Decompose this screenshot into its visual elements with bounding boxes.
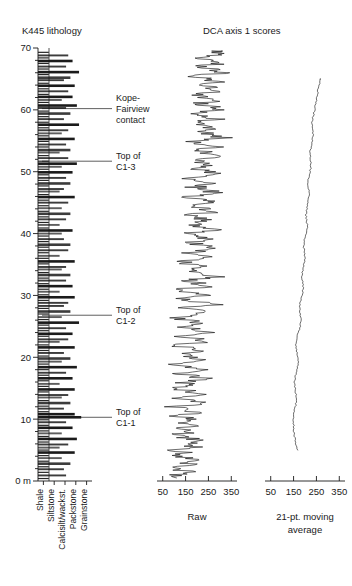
- lithology-y-tick-label: 50: [20, 166, 31, 177]
- lithology-y-tick-label: 20: [20, 352, 31, 363]
- lithology-bar: [38, 116, 49, 117]
- lithology-bar: [38, 432, 62, 434]
- lithology-y-tick-label: 30: [20, 290, 31, 301]
- lithology-bar: [38, 357, 70, 360]
- lithology-bar: [38, 171, 73, 174]
- lithology-bar: [38, 375, 49, 376]
- annotation-label: Kope-: [116, 93, 140, 103]
- lithology-bar: [38, 207, 62, 209]
- lithology-bar: [38, 285, 73, 288]
- lithology-bar: [38, 54, 68, 56]
- lithology-bar: [38, 436, 49, 437]
- lithology-bar: [38, 472, 49, 473]
- lithology-x-axis: [38, 481, 92, 485]
- dca-raw-curve: [164, 51, 232, 478]
- lithology-bar: [38, 294, 49, 295]
- annotation-label: Fairview: [116, 104, 150, 114]
- lithology-bar: [38, 241, 49, 242]
- annotation-label: Top of: [116, 151, 141, 161]
- lithology-bar: [38, 327, 66, 329]
- lithology-bar: [38, 123, 79, 126]
- dca-moving-average-axis-tick-label: 150: [286, 486, 302, 497]
- lithology-bar: [38, 461, 49, 462]
- lithology-bar: [38, 83, 49, 84]
- dca-moving-average-axis-label-line1: 21-pt. moving: [276, 511, 334, 522]
- lithology-bar: [38, 79, 64, 81]
- lithology-bar: [38, 413, 75, 416]
- lithology-bar: [38, 141, 49, 142]
- lithology-bar: [38, 283, 49, 284]
- lithology-bar: [38, 462, 70, 465]
- lithology-bar: [38, 308, 49, 309]
- annotation-label: Top of: [116, 305, 141, 315]
- lithology-bar: [38, 249, 68, 251]
- lithology-bar: [38, 386, 49, 387]
- lithology-bar: [38, 336, 49, 337]
- lithology-bar: [38, 302, 68, 304]
- lithology-bar: [38, 278, 49, 279]
- figure-canvas: 706050403020100 m ShaleSiltstoneCalcisil…: [0, 0, 352, 586]
- lithology-bar: [38, 104, 77, 107]
- lithology-bar: [38, 425, 49, 426]
- lithology-bar: [38, 451, 75, 454]
- lithology-class-label: Shale: [35, 489, 45, 511]
- lithology-bar: [38, 243, 70, 246]
- dca-moving-average-tick-labels: 50150250350: [265, 486, 347, 497]
- lithology-bar: [38, 196, 75, 199]
- lithology-bar: [38, 185, 49, 186]
- lithology-y-tick-label: 70: [20, 42, 31, 53]
- lithology-bar: [38, 457, 62, 459]
- lithology-bar: [38, 330, 49, 331]
- lithology-bar: [38, 466, 49, 467]
- lithology-bar: [38, 296, 75, 299]
- lithology-bar: [38, 235, 49, 236]
- lithology-bar: [38, 216, 49, 217]
- lithology-bar: [38, 162, 77, 165]
- lithology-bar: [38, 321, 79, 324]
- lithology-class-label: Grainstone: [79, 489, 89, 531]
- lithology-bar: [38, 366, 77, 369]
- lithology-y-tick-label: 10: [20, 414, 31, 425]
- lithology-bar: [38, 233, 62, 235]
- dca-raw-axis-tick-label: 250: [200, 486, 216, 497]
- lithology-bar: [38, 468, 64, 470]
- lithology-bar: [38, 363, 49, 364]
- lithology-bar: [38, 438, 77, 441]
- annotation-label: C1-3: [116, 162, 136, 172]
- lithology-bar: [38, 174, 49, 175]
- lithology-bars: [38, 52, 81, 479]
- lithology-bar: [38, 350, 49, 351]
- lithology-bar: [38, 274, 70, 277]
- lithology-bar: [38, 144, 66, 146]
- lithology-bar: [38, 313, 49, 314]
- lithology-bar: [38, 441, 49, 442]
- lithology-bar: [38, 372, 66, 374]
- lithology-bar: [38, 411, 49, 412]
- lithology-bar: [38, 66, 66, 68]
- lithology-bar: [38, 338, 68, 340]
- lithology-y-axis: 706050403020100 m: [15, 42, 38, 486]
- lithology-bar: [38, 60, 73, 63]
- lithology-bar: [38, 132, 62, 134]
- lithology-bar: [38, 478, 49, 479]
- dca-panel-title: DCA axis 1 scores: [203, 25, 281, 36]
- lithology-bar: [38, 388, 75, 391]
- lithology-bar: [38, 344, 49, 345]
- lithology-bar: [38, 427, 73, 430]
- lithology-bar: [38, 397, 62, 399]
- lithology-bar: [38, 68, 49, 69]
- lithology-bar: [38, 247, 49, 248]
- lithology-bar: [38, 406, 49, 407]
- annotation-label: Top of: [116, 407, 141, 417]
- lithology-bar: [38, 263, 49, 264]
- lithology-bar: [38, 182, 70, 185]
- lithology-y-tick-label: 0 m: [15, 475, 31, 486]
- lithology-bar: [38, 380, 49, 381]
- dca-raw-axis-tick-label: 150: [178, 486, 194, 497]
- lithology-bar: [38, 455, 49, 456]
- lithology-bar: [38, 258, 49, 259]
- dca-moving-average-curve: [293, 79, 320, 450]
- lithology-bar: [38, 280, 66, 282]
- lithology-bar: [38, 391, 49, 392]
- lithology-bar: [38, 177, 66, 179]
